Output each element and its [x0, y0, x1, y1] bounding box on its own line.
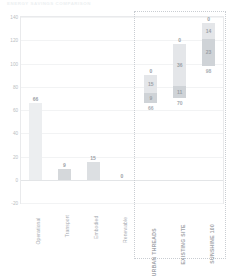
segment-value-label: 9 [144, 95, 157, 101]
stacked-bar[interactable]: 1136070 [173, 17, 186, 203]
segment-value-label: 11 [173, 89, 186, 95]
bar-segment [87, 162, 100, 179]
x-axis-tick-label: Renewable [122, 217, 128, 243]
segment-value-label: 36 [173, 62, 186, 68]
base-value-label: 66 [144, 105, 157, 111]
x-axis-tick-label: Embodied [93, 216, 99, 239]
x-axis-tick-label: Operational [35, 217, 41, 244]
plot-frame: -200204060801001201406691509150661136070… [20, 16, 224, 204]
y-axis-tick-label: 100 [10, 61, 18, 66]
y-axis-tick-label: 120 [10, 38, 18, 43]
base-value-label: 70 [173, 100, 186, 106]
bar-value-label: 66 [29, 96, 42, 102]
chart-title: ENERGY SAVINGS COMPARISON [7, 1, 91, 6]
y-axis-tick-label: 60 [13, 108, 18, 113]
bar[interactable]: 0 [115, 17, 128, 203]
segment-value-label: 23 [202, 49, 215, 55]
segment-value-label: 0 [202, 16, 215, 22]
x-axis-tick-label: Transport [64, 215, 70, 237]
segment-value-label: 15 [144, 81, 157, 87]
bar[interactable]: 66 [29, 17, 42, 203]
y-axis-tick-label: 40 [13, 131, 18, 136]
bar-value-label: 9 [58, 162, 71, 168]
stacked-bar[interactable]: 915066 [144, 17, 157, 203]
bar-value-label: 15 [87, 155, 100, 161]
segment-value-label: 0 [173, 37, 186, 43]
x-axis-tick-label: URBAN THREADS [151, 228, 157, 276]
segment-value-label: 14 [202, 28, 215, 34]
bar[interactable]: 9 [58, 17, 71, 203]
stacked-bar[interactable]: 2314098 [202, 17, 215, 203]
bar-segment [29, 103, 42, 180]
y-axis-tick-label: 20 [13, 154, 18, 159]
bar-value-label: 0 [115, 173, 128, 179]
y-axis-tick-label: 0 [15, 177, 18, 182]
x-axis-labels: OperationalTransportEmbodiedRenewableURB… [20, 204, 224, 259]
y-axis-tick-label: -20 [11, 201, 18, 206]
bar[interactable]: 15 [87, 17, 100, 203]
segment-value-label: 0 [144, 68, 157, 74]
x-axis-tick-label: SUNSHINE 100 [209, 224, 215, 264]
y-axis-tick-label: 140 [10, 15, 18, 20]
bar-segment [58, 169, 71, 179]
plot-area: -200204060801001201406691509150661136070… [21, 17, 223, 203]
y-axis-tick-label: 80 [13, 84, 18, 89]
base-value-label: 98 [202, 68, 215, 74]
x-axis-tick-label: EXISTING SITE [180, 224, 186, 264]
